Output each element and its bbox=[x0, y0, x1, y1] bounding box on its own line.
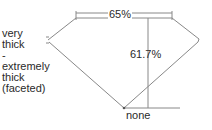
girdle-label: very thick - extremely thick (faceted) bbox=[2, 28, 52, 94]
table-percentage: 65% bbox=[108, 9, 132, 20]
diamond-diagram: very thick - extremely thick (faceted) 6… bbox=[0, 0, 212, 130]
girdle-label-line: (faceted) bbox=[2, 83, 52, 94]
culet-label: none bbox=[126, 110, 150, 121]
depth-percentage: 61.7% bbox=[130, 49, 161, 60]
girdle-label-line: thick bbox=[2, 39, 52, 50]
